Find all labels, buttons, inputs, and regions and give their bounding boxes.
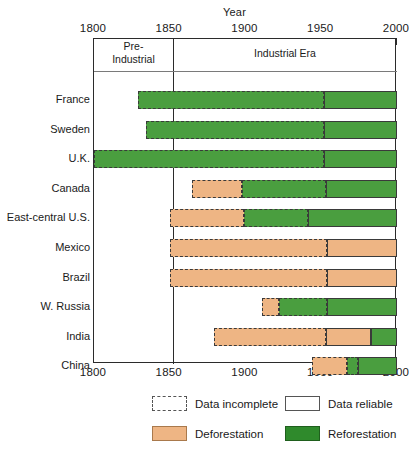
chart-legend: Data incomplete Data reliable Deforestat… <box>0 392 409 452</box>
legend-label-reforestation: Reforestation <box>328 428 396 440</box>
category-label-mexico: Mexico <box>55 241 90 253</box>
bar-segment <box>170 269 328 287</box>
legend-item-data-reliable: Data reliable <box>285 396 393 411</box>
tick-mark-top-2000 <box>396 38 397 45</box>
bar-mexico <box>94 239 397 257</box>
legend-item-reforestation: Reforestation <box>285 426 396 441</box>
bar-canada <box>94 180 397 198</box>
legend-item-data-incomplete: Data incomplete <box>152 396 278 411</box>
data-reliable-swatch-icon <box>285 396 320 411</box>
category-label-france: France <box>56 93 90 105</box>
bar-brazil <box>94 269 397 287</box>
bar-segment <box>170 209 244 227</box>
bar-france <box>94 91 397 109</box>
era-label-industrial: Industrial Era <box>173 47 397 60</box>
bar-india <box>94 328 397 346</box>
bar-segment <box>214 328 326 346</box>
category-label-china: China <box>61 359 90 371</box>
category-label-w-russia: W. Russia <box>40 300 90 312</box>
deforestation-reforestation-chart: Year 18001850190019502000 18001850190019… <box>0 0 409 458</box>
category-label-u-k-: U.K. <box>69 152 90 164</box>
bar-segment <box>326 180 397 198</box>
reforestation-swatch-icon <box>285 426 320 441</box>
era-label-pre-industrial: Pre- Industrial <box>94 40 173 65</box>
bar-w-russia <box>94 298 397 316</box>
deforestation-swatch-icon <box>152 426 187 441</box>
bar-sweden <box>94 121 397 139</box>
bar-segment <box>324 91 397 109</box>
bar-segment <box>324 121 397 139</box>
bar-segment <box>138 91 324 109</box>
category-label-canada: Canada <box>51 182 90 194</box>
bar-segment <box>358 357 397 375</box>
x-tick-label-top-1950: 1950 <box>307 22 333 34</box>
x-tick-label-top-1850: 1850 <box>156 22 182 34</box>
plot-area: Pre- Industrial Industrial Era <box>93 38 396 363</box>
bar-segment <box>371 328 397 346</box>
legend-label-data-reliable: Data reliable <box>328 398 393 410</box>
bar-segment <box>327 239 397 257</box>
category-label-india: India <box>66 330 90 342</box>
bar-segment <box>312 357 347 375</box>
x-tick-label-top-2000: 2000 <box>383 22 409 34</box>
legend-label-deforestation: Deforestation <box>195 428 263 440</box>
bar-segment <box>308 209 397 227</box>
axis-title-year: Year <box>0 6 409 18</box>
bar-segment <box>242 180 325 198</box>
bar-segment <box>94 150 324 168</box>
category-label-east-central-u-s-: East-central U.S. <box>7 211 90 223</box>
bar-segment <box>327 269 397 287</box>
bar-segment <box>192 180 242 198</box>
x-tick-label-top-1900: 1900 <box>231 22 257 34</box>
legend-item-deforestation: Deforestation <box>152 426 263 441</box>
bar-segment <box>347 357 358 375</box>
bar-segment <box>324 150 397 168</box>
bar-u-k- <box>94 150 397 168</box>
x-tick-label-top-1800: 1800 <box>80 22 106 34</box>
bar-china <box>94 357 397 375</box>
bar-east-central-u-s- <box>94 209 397 227</box>
data-incomplete-swatch-icon <box>152 396 187 411</box>
bar-segment <box>327 298 397 316</box>
bar-segment <box>279 298 327 316</box>
category-label-brazil: Brazil <box>62 271 90 283</box>
era-header-underline <box>94 71 397 72</box>
bar-segment <box>326 328 371 346</box>
bar-segment <box>244 209 308 227</box>
legend-label-data-incomplete: Data incomplete <box>195 398 278 410</box>
bar-segment <box>146 121 325 139</box>
category-label-sweden: Sweden <box>50 123 90 135</box>
bar-segment <box>170 239 328 257</box>
bar-segment <box>262 298 279 316</box>
